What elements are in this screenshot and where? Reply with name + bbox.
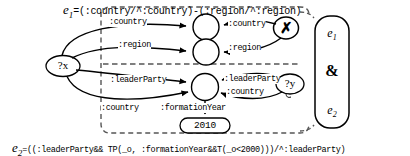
node-literal-2010-label: 2010 <box>180 120 230 131</box>
edge-label-region-in: :region <box>228 43 261 53</box>
bracket-operator-and: & <box>315 62 349 80</box>
edge-label-formationyear: :formationYear <box>160 103 226 113</box>
formula-e1-body: =(:country/^:country)-(:region/^:region) <box>73 6 301 17</box>
edge-label-leaderparty-in: :leaderParty <box>224 74 280 84</box>
formula-e2: e2=((:leaderParty&& TP(_o, :formationYea… <box>12 138 345 156</box>
node-object-y-label: ?y <box>278 77 302 89</box>
negation-cross-icon: ✗ <box>274 19 298 37</box>
diagram-canvas: e1=(:country/^:country)-(:region/^:regio… <box>0 0 410 156</box>
edge-label-region-out: :region <box>118 40 151 50</box>
edge-label-country-in: :country <box>228 19 266 29</box>
formula-e1: e1=(:country/^:country)-(:region/^:regio… <box>63 0 301 20</box>
edge-label-country-out-lower: :country <box>101 103 139 113</box>
formula-e2-body: =((:leaderParty&& TP(_o, :formationYear&… <box>22 145 345 155</box>
bracket-e2-subscript: 2 <box>333 110 337 119</box>
edge-label-leaderparty-out: :leaderParty <box>110 75 166 85</box>
bracket-label-e2: e2 <box>315 103 349 119</box>
bracket-label-e1: e1 <box>315 26 349 42</box>
node-subject-x-label: ?x <box>50 59 76 71</box>
edge-label-country-in-y: :country <box>226 87 264 97</box>
node-object-party <box>192 74 219 101</box>
edge-label-country-out: :country <box>109 17 147 27</box>
node-object-region <box>193 39 219 65</box>
bracket-connectors <box>300 12 314 131</box>
bracket-e1-subscript: 1 <box>333 33 337 42</box>
